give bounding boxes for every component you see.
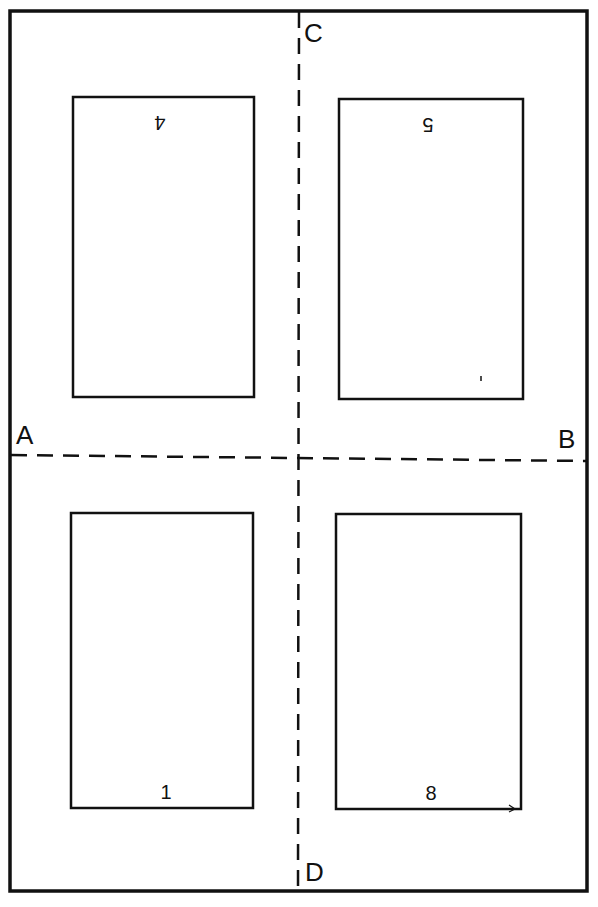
page-number-8: 8 xyxy=(425,782,436,804)
page-bottom-left: 1 xyxy=(71,513,253,808)
fold-label-d: D xyxy=(305,857,324,887)
page-top-right: 5 xyxy=(339,99,523,399)
fold-label-a: A xyxy=(16,420,34,450)
page-number-5: 5 xyxy=(422,114,433,136)
page-frame xyxy=(339,99,523,399)
page-frame xyxy=(71,513,253,808)
page-frame xyxy=(73,97,254,397)
page-bottom-right: 8 xyxy=(336,514,521,812)
page-top-left: 4 xyxy=(73,97,254,397)
fold-line-c-d xyxy=(298,12,299,890)
page-frame xyxy=(336,514,521,809)
page-number-1: 1 xyxy=(160,781,171,803)
fold-label-b: B xyxy=(558,424,575,454)
page-number-4: 4 xyxy=(154,112,165,134)
imposition-diagram: A B C D 4 5 1 8 xyxy=(0,0,598,907)
fold-label-c: C xyxy=(304,18,323,48)
